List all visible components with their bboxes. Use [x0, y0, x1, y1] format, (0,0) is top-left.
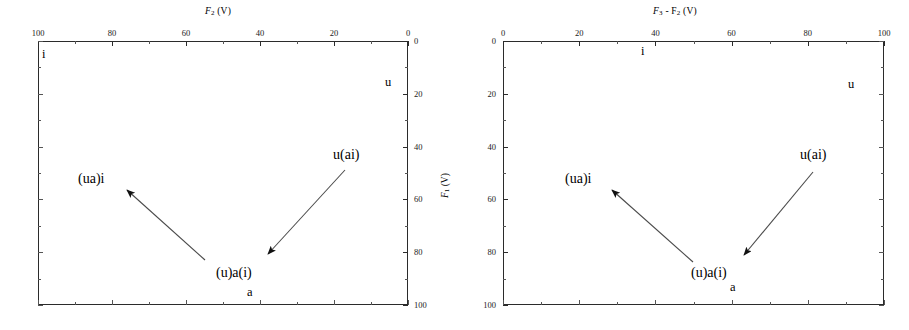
left-arrow-to-ua-i: [127, 190, 205, 260]
plot-panel-left: F2 (V) 100806040200020406080100 F1 (V) i…: [0, 0, 455, 330]
right-point-label-ua-i: (ua)i: [565, 172, 591, 186]
left-corner-label-i: i: [42, 48, 45, 61]
right-corner-label-i: i: [641, 45, 644, 58]
right-arrow-to-u-a-i: [744, 172, 813, 255]
right-point-label-u-a-i: (u)a(i): [691, 266, 727, 280]
left-point-label-u-a-i: (u)a(i): [216, 266, 252, 280]
left-corner-label-a: a: [247, 286, 253, 299]
left-vector-arrows: [0, 0, 455, 330]
left-point-label-ua-i: (ua)i: [78, 172, 104, 186]
right-corner-label-a: a: [730, 281, 736, 294]
right-vector-arrows: [455, 0, 909, 330]
right-corner-label-u: u: [848, 78, 854, 91]
plot-panel-right: F3 - F2 (V) 020406080100020406080100 i u…: [455, 0, 909, 330]
left-corner-label-u: u: [385, 76, 391, 89]
figure-canvas: F2 (V) 100806040200020406080100 F1 (V) i…: [0, 0, 909, 330]
left-point-label-u-ai: u(ai): [333, 148, 359, 162]
right-arrow-to-ua-i: [612, 190, 693, 262]
left-arrow-to-u-a-i: [268, 170, 345, 254]
right-point-label-u-ai: u(ai): [800, 148, 826, 162]
